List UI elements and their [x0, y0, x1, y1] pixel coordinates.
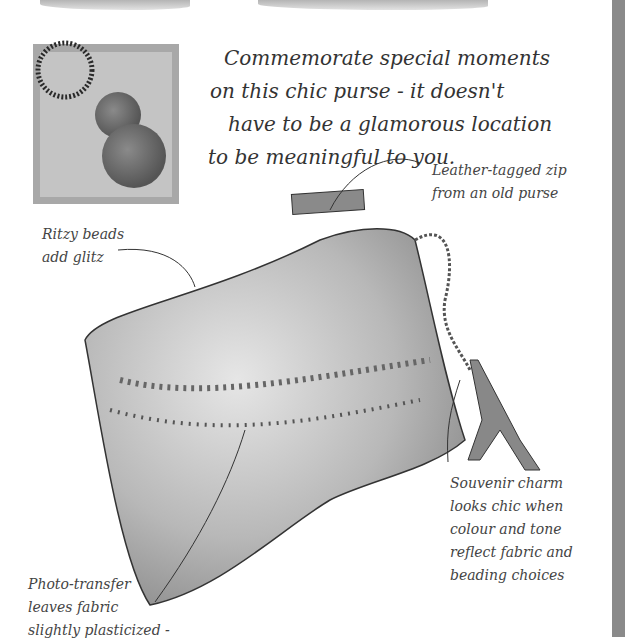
callout-line: leaves fabric [28, 600, 170, 623]
callout-line: reflect fabric and [450, 545, 573, 568]
page: Commemorate special moments on this chic… [0, 0, 612, 637]
callout-charm: Souvenir charm looks chic when colour an… [450, 476, 573, 591]
callout-line: beading choices [450, 568, 573, 591]
callout-line: Souvenir charm [450, 476, 573, 499]
zip-tag [291, 190, 364, 215]
callout-zip: Leather-tagged zip from an old purse [432, 163, 567, 209]
callout-beads: Ritzy beads add glitz [42, 227, 124, 273]
intro-line: have to be a glamorous location [228, 114, 552, 147]
callout-line: Leather-tagged zip [432, 163, 567, 186]
callout-line: slightly plasticized - [28, 623, 170, 642]
intro-text: Commemorate special moments on this chic… [210, 48, 552, 180]
callout-photo-transfer: Photo-transfer leaves fabric slightly pl… [28, 577, 170, 642]
callout-line: Ritzy beads [42, 227, 124, 250]
callout-line: from an old purse [432, 186, 567, 209]
eiffel-tower-charm [468, 360, 540, 470]
fabric-swatch-photo [33, 43, 179, 204]
callout-line: Photo-transfer [28, 577, 170, 600]
callout-line: add glitz [42, 250, 124, 273]
page-edge [612, 0, 625, 637]
callout-line: colour and tone [450, 522, 573, 545]
intro-line: on this chic purse - it doesn't [210, 81, 552, 114]
intro-line: Commemorate special moments [224, 48, 552, 81]
callout-line: looks chic when [450, 499, 573, 522]
